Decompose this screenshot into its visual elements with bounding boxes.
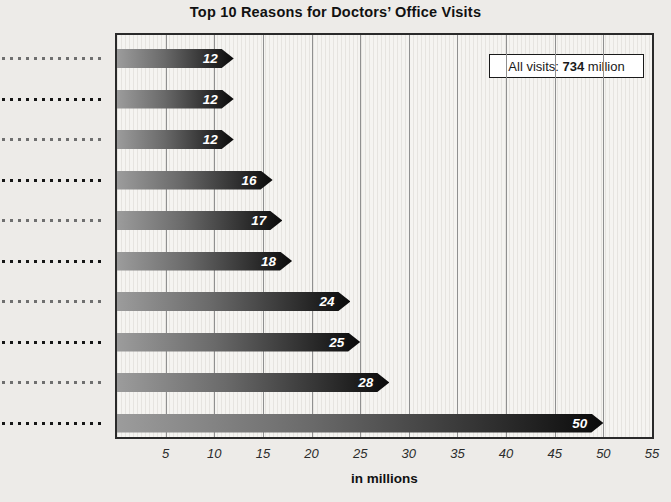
figure-page: { "chart_data": { "type": "bar", "orient… — [0, 0, 671, 502]
x-tick-label-40: 40 — [488, 446, 524, 461]
bar-value-label: 16 — [242, 171, 273, 190]
category-leader-line-7 — [2, 300, 103, 303]
bar-row-5: 17 — [117, 211, 282, 230]
bar-row-8: 25 — [117, 333, 360, 352]
bar-row-1: 12 — [117, 49, 234, 68]
bar-row-9: 28 — [117, 373, 389, 392]
category-leader-line-5 — [2, 219, 103, 222]
bar-row-2: 12 — [117, 90, 234, 109]
category-leader-line-3 — [2, 138, 103, 141]
bar-value-label: 25 — [329, 333, 360, 352]
bar-row-10: 50 — [117, 414, 603, 433]
gridline-x-40 — [506, 35, 507, 437]
x-tick-label-30: 30 — [391, 446, 427, 461]
x-tick-label-10: 10 — [196, 446, 232, 461]
x-tick-label-5: 5 — [148, 446, 184, 461]
bar-value-label: 18 — [261, 252, 292, 271]
gridline-x-30 — [409, 35, 410, 437]
x-tick-label-15: 15 — [245, 446, 281, 461]
callout-value: 734 — [563, 59, 585, 74]
bar-row-3: 12 — [117, 130, 234, 149]
x-axis-label: in millions — [115, 471, 654, 486]
category-leader-line-9 — [2, 381, 103, 384]
bar-row-4: 16 — [117, 171, 273, 190]
category-leader-line-6 — [2, 260, 103, 263]
gridline-x-45 — [555, 35, 556, 437]
x-tick-label-20: 20 — [294, 446, 330, 461]
plot-area: All visits: 734 million 1212121617182425… — [115, 33, 654, 439]
callout-suffix: million — [584, 59, 624, 74]
x-tick-label-55: 55 — [634, 446, 670, 461]
x-tick-label-35: 35 — [439, 446, 475, 461]
category-leader-line-4 — [2, 179, 103, 182]
category-leader-line-10 — [2, 422, 103, 425]
category-leader-line-2 — [2, 98, 103, 101]
category-leader-line-1 — [2, 57, 103, 60]
bar-value-label: 12 — [203, 90, 234, 109]
total-visits-callout: All visits: 734 million — [489, 54, 644, 78]
bar-value-label: 24 — [319, 292, 350, 311]
x-tick-label-25: 25 — [342, 446, 378, 461]
chart-title: Top 10 Reasons for Doctors’ Office Visit… — [0, 4, 671, 20]
bar-value-label: 12 — [203, 49, 234, 68]
gridline-x-35 — [457, 35, 458, 437]
x-tick-label-45: 45 — [537, 446, 573, 461]
category-leader-line-8 — [2, 341, 103, 344]
bar-row-7: 24 — [117, 292, 350, 311]
bar-row-6: 18 — [117, 252, 292, 271]
x-tick-label-50: 50 — [585, 446, 621, 461]
bar-value-label: 50 — [572, 414, 603, 433]
gridline-x-50 — [603, 35, 604, 437]
bar-value-label: 12 — [203, 130, 234, 149]
bar-value-label: 17 — [251, 211, 282, 230]
bar-value-label: 28 — [358, 373, 389, 392]
